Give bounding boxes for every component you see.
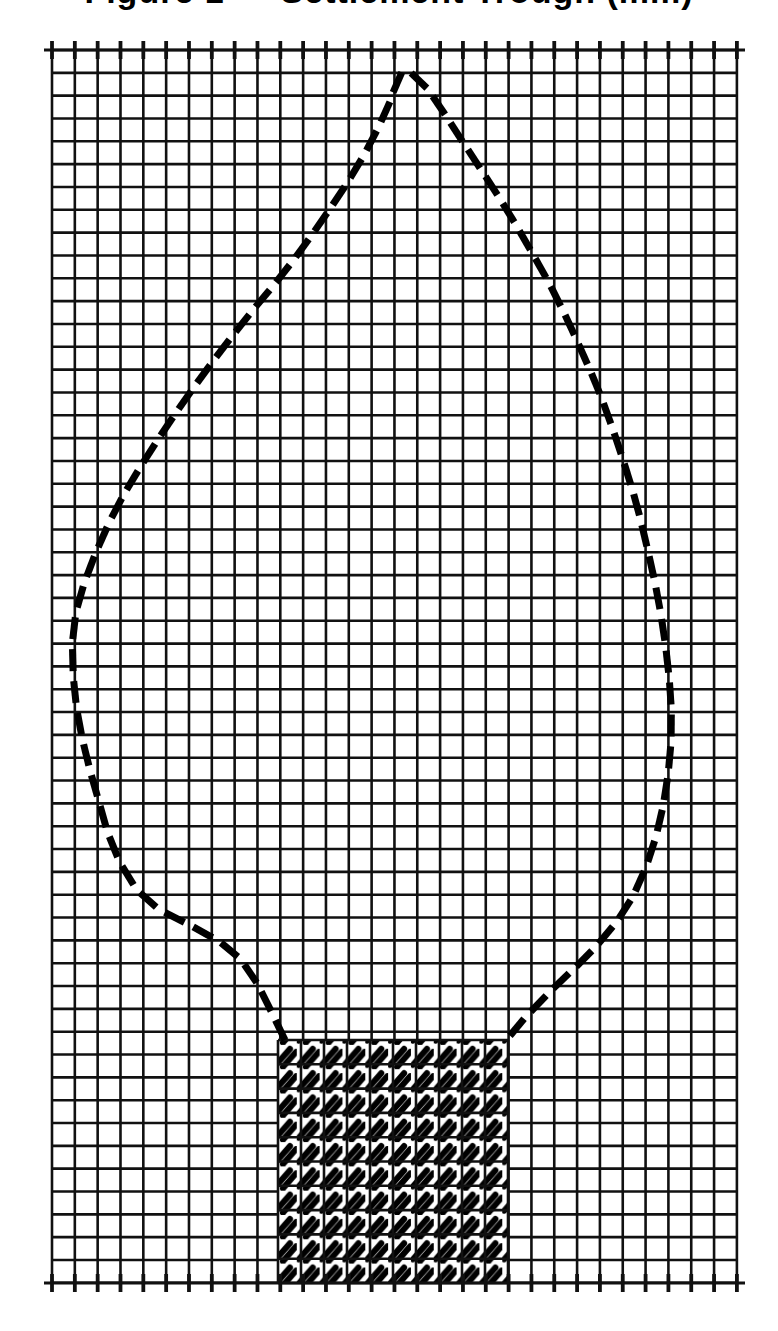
diagram-svg [0, 0, 778, 1331]
figure-canvas [0, 0, 778, 1331]
hatched-block [278, 1040, 508, 1283]
figure-page: Figure 1 — Settlement Trough (mm) [0, 0, 778, 1331]
